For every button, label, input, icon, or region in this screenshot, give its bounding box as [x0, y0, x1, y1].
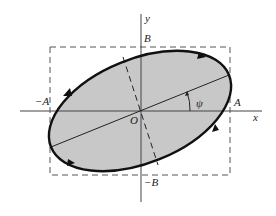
- y-axis-label: y: [144, 12, 150, 24]
- polarization-ellipse-figure: y B −A A x O ψ −B: [0, 0, 276, 216]
- direction-arrow-icon: [63, 88, 72, 96]
- diagram-canvas: y B −A A x O ψ −B: [0, 0, 276, 216]
- neg-b-label: −B: [144, 176, 158, 188]
- b-label: B: [144, 32, 151, 44]
- x-axis-label: x: [252, 111, 258, 123]
- origin-label: O: [130, 114, 138, 126]
- a-label: A: [233, 96, 241, 108]
- neg-a-label: −A: [35, 95, 49, 107]
- psi-label: ψ: [196, 97, 203, 109]
